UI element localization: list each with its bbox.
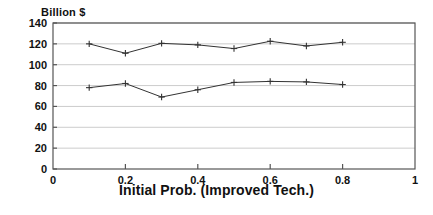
plot-frame <box>53 23 415 169</box>
data-point-marker <box>231 79 237 85</box>
data-point-marker <box>195 42 201 48</box>
data-point-marker <box>86 41 92 47</box>
y-tick-label: 60 <box>35 100 47 112</box>
chart-container: Billion $ 020406080100120140 00.20.40.60… <box>0 0 433 215</box>
y-tick-label: 20 <box>35 142 47 154</box>
data-series-group <box>86 38 346 100</box>
series-line <box>89 41 342 53</box>
data-point-marker <box>303 79 309 85</box>
data-point-marker <box>339 81 345 87</box>
y-tick-label: 100 <box>29 59 47 71</box>
y-tick-label: 80 <box>35 80 47 92</box>
data-point-marker <box>339 39 345 45</box>
data-point-marker <box>267 78 273 84</box>
data-point-marker <box>158 40 164 46</box>
axis-frame <box>53 23 415 169</box>
data-point-marker <box>195 87 201 93</box>
data-point-marker <box>122 50 128 56</box>
y-tick-label: 140 <box>29 17 47 29</box>
x-axis-title: Initial Prob. (Improved Tech.) <box>0 182 433 198</box>
data-point-marker <box>231 45 237 51</box>
data-point-marker <box>158 94 164 100</box>
y-tick-label: 0 <box>41 163 47 175</box>
y-tick-label: 40 <box>35 121 47 133</box>
y-tick-label: 120 <box>29 38 47 50</box>
